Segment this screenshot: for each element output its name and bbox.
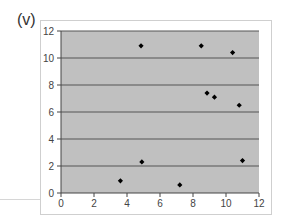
x-tick-label: 0 xyxy=(58,198,64,209)
x-tick-label: 4 xyxy=(124,198,130,209)
scatter-chart: 024681012 024681012 xyxy=(0,0,283,220)
x-tick-label: 6 xyxy=(157,198,163,209)
x-axis-ticks: 024681012 xyxy=(58,193,265,209)
y-tick-label: 0 xyxy=(48,188,54,199)
y-tick-label: 8 xyxy=(48,80,54,91)
y-tick-label: 12 xyxy=(43,26,55,37)
x-tick-label: 2 xyxy=(91,198,97,209)
y-tick-label: 4 xyxy=(48,134,54,145)
y-axis-ticks: 024681012 xyxy=(43,26,61,199)
x-tick-label: 10 xyxy=(220,198,232,209)
x-tick-label: 12 xyxy=(253,198,265,209)
y-tick-label: 10 xyxy=(43,53,55,64)
y-tick-label: 2 xyxy=(48,161,54,172)
x-tick-label: 8 xyxy=(190,198,196,209)
y-tick-label: 6 xyxy=(48,107,54,118)
